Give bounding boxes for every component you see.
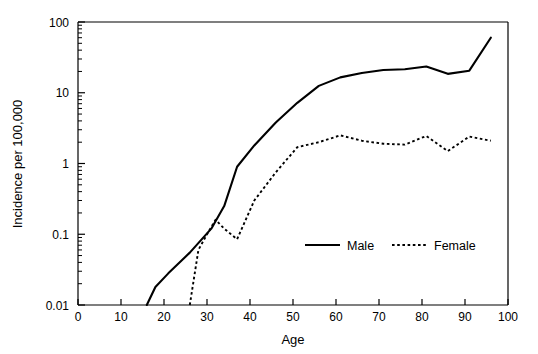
x-axis-title: Age xyxy=(281,332,304,347)
plot-frame xyxy=(78,22,508,305)
y-axis-title: Incidence per 100,000 xyxy=(10,100,25,229)
series-line-female xyxy=(190,135,491,305)
x-tick-label: 60 xyxy=(329,310,343,324)
chart-figure: 0.010.1110100 0102030405060708090100 Age… xyxy=(0,0,538,354)
x-axis-ticks xyxy=(78,299,508,305)
x-tick-label: 0 xyxy=(75,310,82,324)
x-tick-label: 40 xyxy=(243,310,257,324)
y-tick-label: 10 xyxy=(56,86,70,100)
y-tick-label: 100 xyxy=(49,16,69,30)
chart-legend: Male Female xyxy=(305,239,476,253)
x-tick-label: 70 xyxy=(372,310,386,324)
incidence-by-age-line-chart: 0.010.1110100 0102030405060708090100 Age… xyxy=(0,0,538,354)
legend-label-male: Male xyxy=(347,239,374,253)
y-axis-tick-labels: 0.010.1110100 xyxy=(46,16,70,313)
x-tick-label: 100 xyxy=(498,310,518,324)
x-tick-label: 90 xyxy=(458,310,472,324)
y-tick-label: 0.1 xyxy=(52,228,69,242)
x-tick-label: 10 xyxy=(114,310,128,324)
x-tick-label: 30 xyxy=(200,310,214,324)
x-tick-label: 20 xyxy=(157,310,171,324)
x-tick-label: 50 xyxy=(286,310,300,324)
y-axis-ticks xyxy=(78,22,85,305)
x-axis-tick-labels: 0102030405060708090100 xyxy=(75,310,519,324)
y-tick-label: 0.01 xyxy=(46,299,70,313)
y-tick-label: 1 xyxy=(62,157,69,171)
x-tick-label: 80 xyxy=(415,310,429,324)
legend-label-female: Female xyxy=(434,239,476,253)
series-line-male xyxy=(147,38,491,305)
